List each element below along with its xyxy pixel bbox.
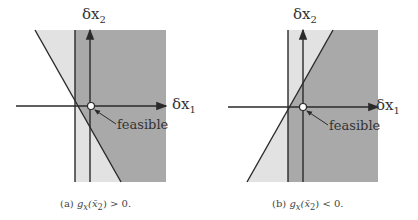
- y-axis-label-b: δx2: [293, 5, 317, 25]
- y-axis-label-text: δx: [293, 5, 311, 23]
- y-axis-label-text: δx: [82, 5, 100, 23]
- y-axis-label-sub: 2: [311, 14, 317, 25]
- x-axis-label-sub: 1: [394, 105, 400, 116]
- feasible-point: [300, 104, 307, 111]
- x-axis-label-text: δx: [172, 95, 190, 113]
- panel-b: [228, 30, 378, 182]
- y-axis-label-a: δx2: [82, 5, 106, 25]
- y-axis-label-sub: 2: [100, 14, 106, 25]
- feasible-label-b: feasible: [329, 118, 380, 133]
- caption-prefix: (a): [60, 198, 77, 209]
- caption-rest: ) > 0.: [103, 198, 131, 209]
- x-axis-label-b: δx1: [376, 96, 400, 116]
- caption-prefix: (b): [272, 198, 289, 209]
- x-axis-label-text: δx: [376, 96, 394, 114]
- caption-b: (b) gx(x̄2) < 0.: [272, 198, 344, 212]
- panel-a: [16, 30, 166, 182]
- feasible-label-a: feasible: [117, 117, 168, 132]
- x-axis-label-sub: 1: [190, 104, 196, 115]
- caption-a: (a) gx(x̄2) > 0.: [60, 198, 131, 212]
- caption-arg: (x̄: [301, 198, 311, 209]
- feasible-point: [88, 103, 95, 110]
- caption-rest: ) < 0.: [315, 198, 343, 209]
- diagram-canvas: [0, 0, 418, 220]
- x-axis-label-a: δx1: [172, 95, 196, 115]
- caption-arg: (x̄: [88, 198, 98, 209]
